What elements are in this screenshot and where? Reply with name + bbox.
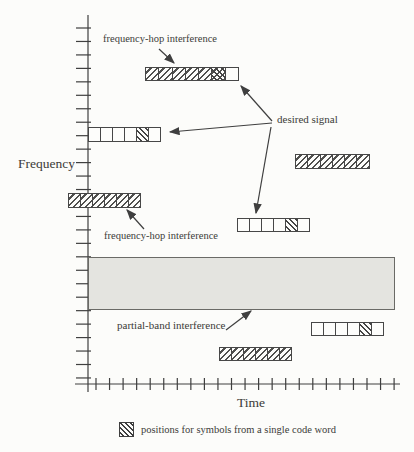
symbol-cell-fwd: [172, 67, 186, 81]
arrow-partial-band-label-to-band: [226, 311, 251, 330]
frequency-hop-interference-bar-top: [145, 67, 239, 81]
symbol-cell-empty: [148, 127, 161, 142]
annotation-frequency-hop-interference-left: frequency-hop interference: [104, 230, 218, 241]
symbol-cell-fwd: [332, 154, 345, 169]
time-axis-label: Time: [237, 395, 265, 411]
legend: positions for symbols from a single code…: [119, 422, 336, 437]
symbol-cell-fwd: [295, 154, 308, 169]
symbol-cell-fwd: [185, 67, 199, 81]
partial-band-interference-region: [88, 257, 395, 310]
symbol-cell-cross: [211, 67, 225, 81]
annotation-desired-signal: desired signal: [277, 113, 338, 125]
frequency-hop-interference-bar-right: [295, 154, 370, 169]
desired-signal-bar-upper-left: [88, 127, 161, 142]
arrow-desired-signal-to-left-bar: [170, 123, 272, 132]
annotation-frequency-hop-interference-top: frequency-hop interference: [103, 33, 217, 44]
desired-signal-bar-middle: [237, 218, 310, 232]
frequency-axis-label: Frequency: [18, 156, 75, 172]
frequency-hop-interference-bar-bottom: [219, 347, 292, 361]
figure-canvas: Frequency Time frequency-hop interferenc…: [0, 0, 414, 452]
symbol-cell-fwd: [307, 154, 320, 169]
arrow-desired-signal-to-middle-bar: [256, 127, 271, 213]
annotation-partial-band-interference: partial-band interference: [117, 319, 225, 331]
code-word-symbol-swatch-icon: [119, 422, 134, 437]
symbol-cell-fwd: [344, 154, 357, 169]
symbol-cell-empty: [297, 218, 310, 232]
frequency-hop-interference-bar-on-axis: [68, 193, 141, 208]
arrow-fh-top-label-to-bar: [159, 49, 174, 63]
arrow-fh-left-label-to-bar: [127, 210, 144, 229]
symbol-cell-empty: [371, 322, 384, 336]
arrow-desired-signal-to-top-bar: [241, 86, 272, 121]
desired-signal-bar-lower-right: [311, 322, 384, 336]
symbol-cell-fwd: [128, 193, 141, 208]
symbol-cell-fwd: [279, 347, 292, 361]
symbol-cell-fwd: [320, 154, 333, 169]
symbol-cell-fwd: [356, 154, 369, 169]
symbol-cell-empty: [225, 67, 239, 81]
symbol-cell-fwd: [145, 67, 159, 81]
symbol-cell-fwd: [158, 67, 172, 81]
legend-text: positions for symbols from a single code…: [141, 424, 336, 435]
symbol-cell-fwd: [198, 67, 212, 81]
